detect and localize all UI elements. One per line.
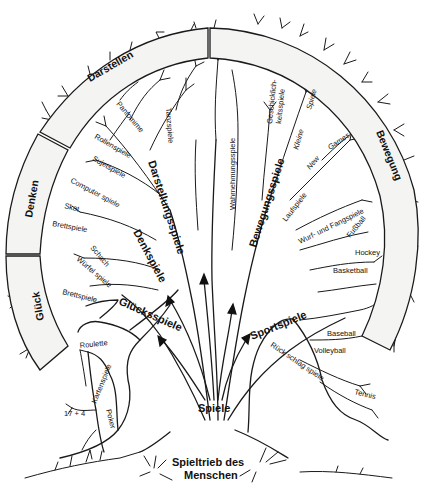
label-hockey: Hockey [355, 248, 380, 257]
arrowhead-icon [228, 304, 236, 314]
label-17-plus-4: 17 + 4 [64, 409, 85, 418]
label-spieltrieb-des: Spieltrieb des [172, 456, 244, 468]
label-tanzspiele: Tanzspiele [164, 108, 175, 144]
label-tennis: Tennis [354, 387, 377, 401]
label-volleyball: Volleyball [314, 346, 346, 355]
category-ring [6, 28, 418, 370]
label-kleine: Kleine [291, 128, 305, 151]
label-darstellungsspiele: Darstellungsspiele [146, 159, 188, 256]
label-games: Games [326, 131, 351, 152]
label-bewegungsspiele: Bewegungsspiele [246, 157, 286, 249]
label-roulette: Roulette [79, 338, 108, 350]
arrowhead-icon [158, 336, 166, 346]
label-baseball: Baseball [327, 329, 356, 338]
label-gluecksspiele: Glücksspiele [117, 295, 184, 334]
arrows [158, 274, 250, 400]
label-kartenspiele: Kartenspiele [90, 363, 114, 405]
label-new: New [305, 154, 322, 172]
label-wahrnehmungsspiele: Wahrnehmungsspiele [228, 138, 237, 210]
label-skat: Skat [64, 201, 82, 214]
trunk-labels: Spiele Spieltrieb des Menschen [172, 402, 244, 481]
label-basketball: Basketball [333, 266, 368, 275]
label-sportspiele: Sportspiele [248, 308, 308, 342]
label-menschen: Menschen [184, 469, 238, 481]
label-pantomime: Pantomime [114, 100, 145, 135]
ring-segment-bewegung [210, 28, 418, 350]
game-tree-diagram: Darstellen Denken Glück Bewegung Darstel… [0, 0, 426, 492]
arrowhead-icon [200, 274, 208, 284]
main-branch-labels: Darstellungsspiele Denkspiele Glücksspie… [117, 138, 308, 342]
label-poker: Poker [104, 408, 118, 430]
label-brettspiele-denken: Brettspiele [52, 219, 88, 234]
arrow-to-denkspiele [170, 300, 210, 400]
arrowhead-icon [242, 334, 250, 344]
label-sujetspiele: Sujetspiele [91, 154, 127, 180]
label-brettspiele-glueck: Brettspiele [62, 287, 99, 304]
label-spiele: Spiele [198, 402, 230, 414]
label-denkspiele: Denkspiele [131, 227, 169, 284]
